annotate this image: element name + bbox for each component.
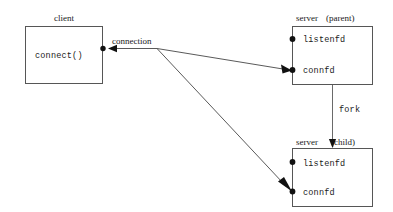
client-box-label: client bbox=[54, 13, 74, 23]
server-child-connfd-label: connfd bbox=[303, 188, 335, 198]
connection-to-child-line bbox=[157, 49, 283, 184]
server-parent-label-right: (parent) bbox=[326, 13, 354, 23]
server-parent-label-left: server bbox=[296, 13, 318, 23]
client-connect-endpoint-dot bbox=[100, 46, 105, 51]
server-child-listenfd-label: listenfd bbox=[303, 159, 345, 169]
fork-edge-label: fork bbox=[339, 105, 360, 115]
server-parent-listenfd-dot bbox=[290, 36, 296, 42]
connect-call-label: connect() bbox=[35, 51, 83, 61]
connection-edge-label: connection bbox=[112, 36, 152, 46]
server-child-listenfd-dot bbox=[290, 159, 296, 165]
server-parent-connfd-label: connfd bbox=[303, 66, 335, 76]
connection-to-parent-line bbox=[157, 49, 283, 70]
server-parent-listenfd-label: listenfd bbox=[303, 35, 345, 45]
server-child-connfd-dot bbox=[290, 189, 296, 195]
server-parent-connfd-dot bbox=[290, 67, 296, 73]
server-child-label-left: server bbox=[296, 137, 318, 147]
diagram-canvas: client connect() server (parent) listenf… bbox=[0, 0, 393, 212]
